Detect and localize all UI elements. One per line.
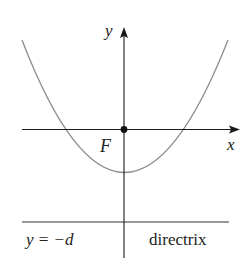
y-axis-label: y <box>103 21 113 40</box>
parabola-curve <box>22 40 228 173</box>
directrix-label: directrix <box>149 230 207 249</box>
x-axis-label: x <box>226 135 235 154</box>
focus-label: F <box>99 136 112 156</box>
directrix-equation: y = −d <box>24 230 74 249</box>
parabola-diagram: y x F y = −d directrix <box>0 0 249 268</box>
focus-point <box>121 126 128 133</box>
